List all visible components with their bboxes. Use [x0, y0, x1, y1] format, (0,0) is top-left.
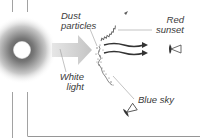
diagram-canvas: Dust particles Red sunset White light Bl…	[0, 0, 200, 138]
white-light-label: White light	[52, 72, 84, 92]
white-light-arrow-icon	[52, 35, 92, 65]
ray-arrowheads	[142, 42, 148, 56]
eye-observer-sky-icon	[122, 102, 138, 117]
dust-label-line2: particles	[61, 21, 96, 31]
eye-observer-sunset-icon	[169, 44, 181, 54]
blue-sky-label: Blue sky	[138, 95, 174, 105]
red-sunset-label: Red sunset	[150, 15, 184, 35]
dust-particles-icon	[95, 44, 113, 85]
sun-glow-icon	[0, 16, 56, 84]
red-transmitted-rays-icon	[104, 44, 144, 55]
red-label-line2: sunset	[150, 25, 184, 35]
white-label-line2: light	[52, 82, 84, 92]
scattered-blue-wave-icon	[98, 11, 128, 41]
dust-particles-label: Dust particles	[61, 11, 96, 31]
